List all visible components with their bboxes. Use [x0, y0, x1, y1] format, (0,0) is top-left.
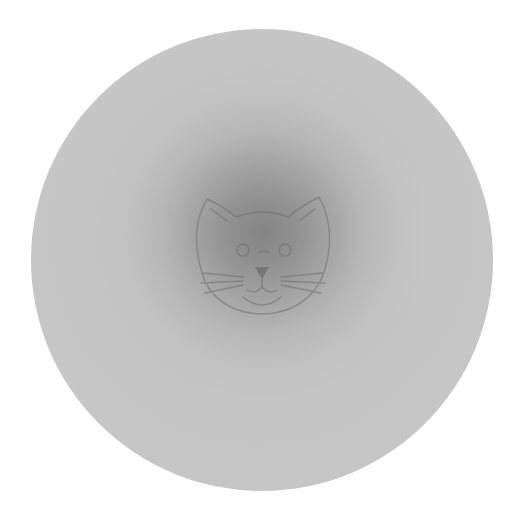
cat-nose [255, 267, 269, 279]
cat-head-outline [196, 197, 329, 314]
cat-left-eye [237, 244, 249, 256]
cat-face-drawing [31, 29, 493, 491]
cat-right-eye [279, 244, 291, 256]
cat-whiskers-left [201, 273, 243, 293]
cat-whiskers-right [281, 273, 325, 293]
cat-mouth [247, 279, 277, 292]
gray-circle-vignette [31, 29, 493, 491]
cat-left-ear-inner [211, 209, 227, 221]
cat-brow-mark [259, 251, 269, 254]
cat-right-ear-inner [299, 209, 315, 221]
cat-chin [243, 297, 281, 305]
